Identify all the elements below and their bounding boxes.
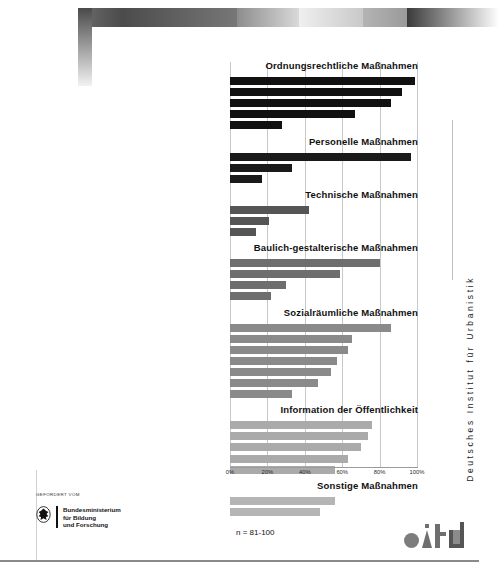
chart-bar (230, 432, 368, 440)
chart-axis-line (230, 467, 418, 468)
chart-bar (230, 99, 391, 107)
funder-divider (56, 506, 58, 528)
chart-bar (230, 121, 282, 129)
chart-bar (230, 508, 320, 516)
header-decorative-banner (0, 0, 479, 40)
funder-ministry-name: Bundesministerium für Bildung und Forsch… (63, 506, 121, 529)
chart-bar (230, 77, 415, 85)
banner-band-3 (237, 8, 299, 27)
difu-logo-i (422, 530, 432, 548)
chart-x-axis: 0%20%40%60%80%100% (160, 469, 480, 481)
chart-bar (230, 228, 256, 236)
banner-band-5 (363, 8, 407, 27)
x-tick-label: 0% (226, 469, 234, 475)
funder-eyebrow: GEFÖRDERT VOM (36, 492, 216, 497)
difu-logo-f-stem (435, 524, 440, 548)
footer-rule (0, 560, 479, 562)
difu-logo-icon (404, 520, 466, 550)
chart-bar (230, 110, 355, 118)
x-tick-label: 60% (336, 469, 348, 475)
chart-bar (230, 346, 348, 354)
difu-logo-u-stem (460, 522, 464, 548)
chart-group-title: Sonstige Maßnahmen (317, 480, 418, 491)
chart-bar (230, 324, 391, 332)
chart-group-title: Information der Öffentlichkeit (280, 404, 418, 415)
chart-bar (230, 259, 380, 267)
chart-bar (230, 421, 372, 429)
chart-bar (230, 153, 411, 161)
chart-bar (230, 335, 352, 343)
chart-bar (230, 88, 402, 96)
chart-bar (230, 292, 271, 300)
chart-group-title: Personelle Maßnahmen (309, 136, 418, 147)
chart-bar (230, 379, 318, 387)
institute-name: Deutsches Institut für Urbanistik (465, 276, 475, 482)
difu-logo-f-bar (435, 532, 446, 536)
x-tick-label: 40% (299, 469, 311, 475)
funder-line-2: für Bildung (63, 514, 121, 522)
chart-bar (230, 281, 286, 289)
chart-group-title: Technische Maßnahmen (305, 189, 418, 200)
banner-band-6 (407, 8, 499, 27)
chart-group-title: Baulich-gestalterische Maßnahmen (254, 242, 418, 253)
chart-bar (230, 390, 292, 398)
x-tick-label: 100% (410, 469, 425, 475)
x-tick-label: 20% (262, 469, 274, 475)
chart-group-title: Sozialräumliche Maßnahmen (284, 307, 418, 318)
chart-bar (230, 368, 331, 376)
chart-bar (230, 357, 337, 365)
difu-logo-d (404, 533, 419, 548)
funder-line-1: Bundesministerium (63, 506, 121, 514)
funder-logo-block: GEFÖRDERT VOM Bundesministerium für Bild… (36, 492, 216, 542)
difu-logo-i-dot (425, 524, 429, 528)
vertical-rule (452, 120, 453, 280)
chart-bar (230, 206, 309, 214)
chart-bar (230, 443, 361, 451)
funder-line-3: und Forschung (63, 521, 121, 529)
banner-band-4 (299, 8, 363, 27)
chart-bar (230, 270, 340, 278)
chart-bar (230, 175, 262, 183)
chart-bar (230, 164, 292, 172)
bar-chart: Ordnungsrechtliche MaßnahmenBestrafung v… (0, 44, 430, 464)
chart-bar (230, 455, 348, 463)
sample-size-note: n = 81-100 (236, 528, 274, 537)
federal-eagle-icon (36, 506, 51, 523)
chart-group-title: Ordnungsrechtliche Maßnahmen (265, 60, 418, 71)
chart-bar (230, 217, 269, 225)
x-tick-label: 80% (374, 469, 386, 475)
chart-bar (230, 497, 335, 505)
banner-band-2 (124, 8, 237, 27)
